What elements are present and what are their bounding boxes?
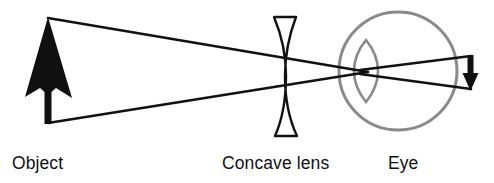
label-eye: Eye (388, 153, 418, 173)
image-arrow (463, 55, 479, 91)
concave-lens-group (274, 17, 297, 136)
image-arrow-shaft (468, 55, 474, 75)
object-arrow (25, 17, 72, 124)
ray-upper-incident (48, 18, 368, 72)
object-arrow-head (25, 17, 72, 98)
concave-lens-shape (274, 17, 297, 136)
ray-lower-incident (48, 72, 368, 123)
diagram-canvas: Object Concave lens Eye (0, 0, 494, 183)
ray-group (48, 18, 471, 123)
label-concave-lens: Concave lens (222, 153, 329, 173)
optics-ray-diagram: Object Concave lens Eye (0, 0, 494, 183)
label-object: Object (12, 153, 63, 173)
